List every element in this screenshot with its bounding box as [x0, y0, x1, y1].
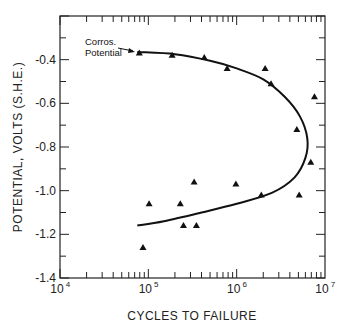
x-tick-label: 10 [139, 282, 153, 296]
triangle-marker-icon [146, 200, 153, 206]
y-axis-title: POTENTIAL, VOLTS (S.H.E.) [11, 62, 25, 232]
annotation-line2: Potential [85, 47, 122, 58]
triangle-marker-icon [193, 222, 200, 228]
triangle-marker-icon [311, 93, 318, 99]
triangle-marker-icon [201, 54, 208, 60]
triangle-marker-icon [258, 192, 265, 198]
y-tick-label: -0.4 [35, 53, 56, 67]
y-tick-labels: -0.4-0.6-0.8-1.0-1.2-1.4 [35, 53, 56, 285]
corros-potential-annotation: Corros. Potential [85, 36, 135, 58]
triangle-marker-icon [307, 159, 314, 165]
x-tick-exponent: 7 [331, 280, 336, 289]
triangle-marker-icon [293, 126, 300, 132]
x-tick-label: 10 [315, 282, 329, 296]
triangle-marker-icon [232, 181, 239, 187]
triangle-marker-icon [177, 200, 184, 206]
triangle-marker-icon [296, 192, 303, 198]
x-axis-title: CYCLES TO FAILURE [127, 309, 256, 323]
fit-curve [137, 52, 307, 226]
x-tick-label: 10 [227, 282, 241, 296]
data-markers [136, 50, 318, 250]
y-tick-label: -0.8 [35, 140, 56, 154]
x-tick-labels: 104105106107 [50, 280, 335, 296]
y-tick-label: -1.0 [35, 184, 56, 198]
triangle-marker-icon [191, 178, 198, 184]
triangle-marker-icon [262, 65, 269, 71]
x-tick-exponent: 4 [66, 280, 71, 289]
y-tick-label: -0.6 [35, 96, 56, 110]
x-tick-label: 10 [50, 282, 64, 296]
arrow-head-icon [128, 48, 135, 53]
x-tick-exponent: 5 [154, 280, 159, 289]
y-tick-label: -1.2 [35, 227, 56, 241]
annotation-line1: Corros. [85, 36, 116, 47]
x-tick-exponent: 6 [242, 280, 247, 289]
chart: -0.4-0.6-0.8-1.0-1.2-1.4 104105106107 CY… [0, 0, 348, 329]
triangle-marker-icon [139, 244, 146, 250]
triangle-marker-icon [180, 222, 187, 228]
